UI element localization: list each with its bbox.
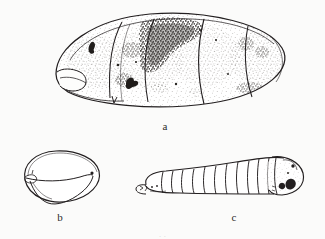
caption-cutoff: · · — [0, 232, 325, 239]
figure-label-c: c — [226, 212, 242, 223]
figure-label-a: a — [157, 121, 173, 132]
figure-c-posterior-dot — [291, 164, 294, 167]
figure-label-b: b — [52, 212, 68, 223]
illustration-plate: a b c · · — [0, 0, 325, 239]
figure-b-posterior-spiracle — [90, 171, 93, 174]
